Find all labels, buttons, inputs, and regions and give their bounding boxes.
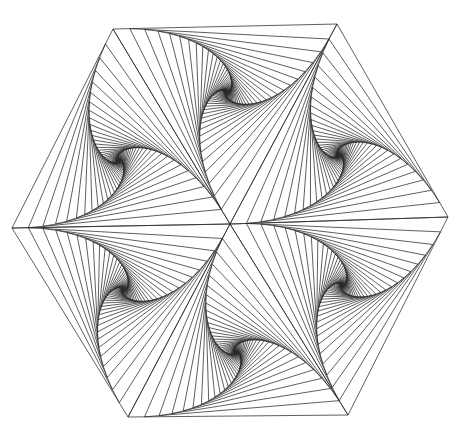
whirl-triangle-1 [113, 24, 337, 224]
whirl-triangle-6 [12, 29, 230, 228]
whirl-triangle-3 [230, 217, 448, 415]
hexagon-string-art [0, 0, 475, 442]
whirl-triangle-2 [230, 24, 448, 224]
whirl-triangles-group [12, 24, 448, 417]
